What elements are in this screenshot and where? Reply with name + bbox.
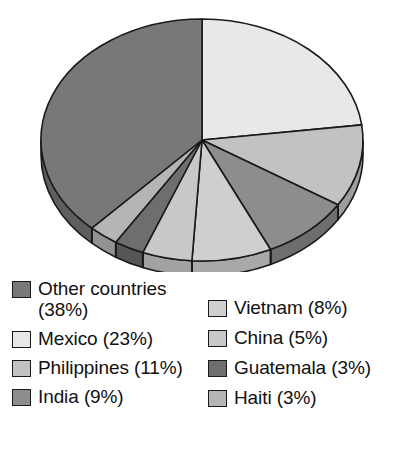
legend-label-india: India (9%) [38,386,124,407]
legend-swatch-china [208,330,227,347]
legend-swatch-vietnam [208,300,227,317]
legend-label-haiti: Haiti (3%) [234,387,316,408]
legend-label-philippines: Philippines (11%) [38,357,183,378]
legend-columns: Other countries (38%) Mexico (23%) Phili… [0,278,403,417]
pie-chart-svg [0,0,403,272]
legend-item-philippines[interactable]: Philippines (11%) [12,357,205,378]
legend-item-other-countries[interactable]: Other countries (38%) [12,278,205,320]
legend-label-mexico: Mexico (23%) [38,328,153,349]
legend-item-china[interactable]: China (5%) [208,327,403,348]
legend-swatch-other-countries [12,281,31,298]
legend-column-left: Other countries (38%) Mexico (23%) Phili… [0,278,205,415]
legend-label-china: China (5%) [234,327,328,348]
legend-column-right: Vietnam (8%) China (5%) Guatemala (3%) H… [205,278,403,417]
legend-label-other-countries: Other countries (38%) [38,278,166,320]
legend-label-vietnam: Vietnam (8%) [234,297,348,318]
pie-chart-plot-area [0,0,403,272]
legend-item-india[interactable]: India (9%) [12,386,205,407]
pie-top-faces [41,19,363,261]
legend-item-haiti[interactable]: Haiti (3%) [208,387,403,408]
legend-item-guatemala[interactable]: Guatemala (3%) [208,357,403,378]
legend-label-guatemala: Guatemala (3%) [234,357,371,378]
legend-swatch-mexico [12,331,31,348]
pie-slice-mexico[interactable] [202,19,362,140]
chart-legend: Other countries (38%) Mexico (23%) Phili… [0,272,403,451]
legend-swatch-philippines [12,360,31,377]
legend-swatch-guatemala [208,360,227,377]
legend-swatch-haiti [208,390,227,407]
legend-item-mexico[interactable]: Mexico (23%) [12,328,205,349]
legend-item-vietnam[interactable]: Vietnam (8%) [208,297,403,318]
legend-swatch-india [12,389,31,406]
pie-chart-figure: Other countries (38%) Mexico (23%) Phili… [0,0,403,451]
